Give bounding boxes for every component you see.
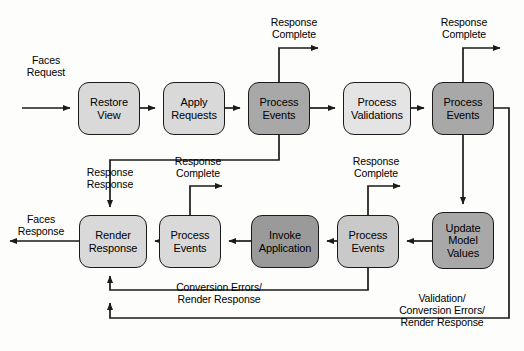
node-invoke-application-label: Invoke Application (259, 229, 312, 254)
label-conversion-errors: Conversion Errors/ Render Response (155, 281, 283, 305)
label-response-complete-2: Response Complete (428, 16, 500, 40)
node-process-events-1-label: Process Events (259, 96, 298, 121)
node-process-events-2-label: Process Events (443, 96, 482, 121)
node-process-events-2[interactable]: Process Events (432, 82, 494, 135)
edge-events3-response-complete (368, 186, 400, 215)
node-process-events-4[interactable]: Process Events (159, 215, 221, 268)
label-faces-response: Faces Response (5, 213, 77, 237)
node-render-response[interactable]: Render Response (79, 215, 147, 268)
label-response-response: Response Response (72, 166, 148, 190)
node-process-events-4-label: Process Events (170, 229, 209, 254)
node-process-events-3-label: Process Events (348, 229, 387, 254)
node-apply-requests-label: Apply Requests (171, 96, 217, 121)
node-process-validations-label: Process Validations (351, 96, 403, 121)
edge-events4-response-complete (190, 186, 222, 215)
node-restore-view-label: Restore View (90, 96, 128, 121)
label-validation-errors: Validation/ Conversion Errors/ Render Re… (378, 292, 506, 329)
label-response-complete-4: Response Complete (340, 155, 412, 179)
node-update-model-values-label: Update Model Values (446, 222, 481, 260)
label-response-complete-1: Response Complete (258, 16, 330, 40)
node-process-events-1[interactable]: Process Events (248, 82, 310, 135)
label-response-complete-3: Response Complete (162, 155, 234, 179)
node-process-events-3[interactable]: Process Events (337, 215, 399, 268)
edge-events1-response-complete (279, 48, 318, 82)
node-restore-view[interactable]: Restore View (78, 82, 140, 135)
node-process-validations[interactable]: Process Validations (343, 82, 411, 135)
node-apply-requests[interactable]: Apply Requests (163, 82, 225, 135)
node-update-model-values[interactable]: Update Model Values (432, 212, 494, 269)
jsf-lifecycle-diagram: Restore View Apply Requests Process Even… (0, 0, 524, 351)
label-faces-request: Faces Request (14, 54, 78, 78)
edge-events2-response-complete (463, 48, 500, 82)
node-render-response-label: Render Response (89, 229, 138, 254)
node-invoke-application[interactable]: Invoke Application (251, 215, 319, 268)
